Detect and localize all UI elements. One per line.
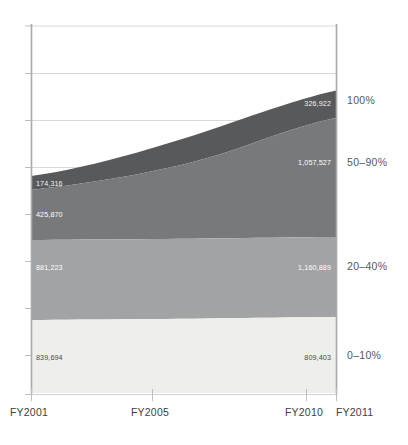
value-label-third-band-start: 881,223 xyxy=(36,263,63,272)
band-legend-50-90: 50–90% xyxy=(347,156,387,168)
value-label-second-band-end: 1,057,527 xyxy=(298,158,331,167)
value-label-top-band-start: 174,316 xyxy=(36,179,63,188)
x-axis-label-fy2011: FY2011 xyxy=(336,406,373,418)
band-legend-100: 100% xyxy=(347,94,375,106)
chart-canvas: 174,316 425,870 881,223 839,694 326,922 … xyxy=(0,0,408,445)
value-label-bottom-band-end: 809,403 xyxy=(304,353,331,362)
value-label-top-band-end: 326,922 xyxy=(304,99,331,108)
band-legend-20-40: 20–40% xyxy=(347,260,387,272)
value-label-bottom-band-start: 839,694 xyxy=(36,353,63,362)
y-axis-ticks xyxy=(25,26,31,395)
x-axis-label-fy2001: FY2001 xyxy=(10,406,48,418)
area-band-0-10 xyxy=(31,317,336,393)
x-axis-label-fy2010: FY2010 xyxy=(285,406,323,418)
band-legend-0-10: 0–10% xyxy=(347,349,381,361)
value-label-second-band-start: 425,870 xyxy=(36,210,63,219)
x-axis-label-fy2005: FY2005 xyxy=(131,406,169,418)
stacked-area-chart: 174,316 425,870 881,223 839,694 326,922 … xyxy=(0,0,408,445)
value-label-third-band-end: 1,160,889 xyxy=(298,263,331,272)
area-band-20-40 xyxy=(31,237,336,320)
